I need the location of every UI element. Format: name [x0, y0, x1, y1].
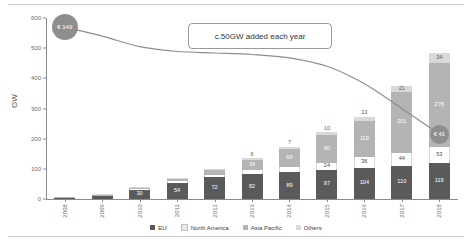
legend-swatch — [243, 225, 248, 230]
bar-segment-others — [167, 178, 188, 179]
bar-segment-north-america — [204, 175, 225, 177]
x-tick-mark — [215, 199, 216, 202]
bar-2017[interactable]: 1104420121 — [391, 86, 412, 199]
bar-value-label: 89 — [279, 183, 300, 189]
bar-segment-asia-pacific — [92, 195, 113, 196]
top-rule — [8, 4, 464, 5]
y-tick-label: 400 — [31, 75, 41, 81]
bar-total-label: 13 — [354, 110, 375, 116]
y-tick-mark — [43, 138, 46, 139]
bar-segment-asia-pacific: 119 — [354, 121, 375, 157]
x-tick-label-2013: 2013 — [249, 204, 255, 218]
bar-segment-eu: 30 — [129, 190, 150, 199]
chart-canvas: GW 0100200300400500600305472823468960797… — [0, 0, 472, 240]
bar-segment-others: 34 — [429, 53, 450, 63]
y-tick-label: 200 — [31, 136, 41, 142]
bar-segment-eu: 97 — [316, 170, 337, 199]
bar-2014[interactable]: 89607 — [279, 147, 300, 199]
bar-value-label: 21 — [391, 86, 412, 92]
bar-segment-eu: 119 — [429, 163, 450, 199]
bar-value-label: 24 — [317, 163, 336, 169]
x-tick-mark — [102, 199, 103, 202]
y-tick-label: 600 — [31, 15, 41, 21]
start-cost-marker: € 149 — [52, 14, 78, 40]
bar-value-label: 119 — [429, 178, 450, 184]
x-tick-label-2017: 2017 — [399, 204, 405, 218]
bar-segment-eu: 110 — [391, 166, 412, 199]
bar-total-label: 10 — [316, 126, 337, 132]
bar-value-label: 90 — [316, 146, 337, 152]
x-tick-mark — [65, 199, 66, 202]
bar-segment-others — [279, 147, 300, 149]
x-tick-mark — [439, 199, 440, 202]
y-tick-mark — [43, 18, 46, 19]
x-tick-mark — [289, 199, 290, 202]
legend-item-asia-pacific[interactable]: Asia Pacific — [243, 224, 282, 231]
x-tick-label-2012: 2012 — [212, 204, 218, 218]
bar-value-label: 34 — [242, 162, 263, 168]
bar-2011[interactable]: 54 — [167, 178, 188, 199]
bar-segment-asia-pacific: 90 — [316, 135, 337, 162]
bar-segment-others: 21 — [391, 86, 412, 92]
x-tick-label-2011: 2011 — [174, 204, 180, 217]
bar-total-label: 7 — [279, 140, 300, 146]
bar-segment-eu: 104 — [354, 168, 375, 199]
bar-2015[interactable]: 97249010 — [316, 132, 337, 199]
x-tick-label-2014: 2014 — [286, 204, 292, 218]
bottom-rule — [8, 236, 464, 237]
annotation-box: c.50GW added each year — [188, 23, 332, 49]
bar-value-label: 119 — [354, 136, 375, 142]
bar-segment-others — [316, 132, 337, 135]
legend-label: Others — [304, 225, 322, 231]
legend-item-north-america[interactable]: North America — [181, 224, 229, 231]
bar-total-label: 6 — [242, 152, 263, 158]
x-tick-mark — [327, 199, 328, 202]
y-axis-label: GW — [10, 94, 19, 108]
x-tick-mark — [252, 199, 253, 202]
bar-segment-asia-pacific: 34 — [242, 160, 263, 170]
x-tick-label-2010: 2010 — [137, 204, 143, 218]
x-tick-mark — [364, 199, 365, 202]
bar-segment-north-america: 36 — [354, 157, 375, 168]
bar-value-label: 72 — [204, 185, 225, 191]
bar-segment-north-america: 44 — [391, 153, 412, 166]
bar-segment-asia-pacific — [204, 170, 225, 175]
y-tick-label: 100 — [31, 166, 41, 172]
bar-2016[interactable]: 1043611913 — [354, 117, 375, 199]
bar-value-label: 97 — [316, 182, 337, 188]
bar-segment-north-america — [167, 181, 188, 183]
end-cost-marker: € 43 — [430, 125, 449, 144]
bar-segment-north-america — [279, 167, 300, 172]
bar-value-label: 110 — [391, 180, 412, 186]
legend-swatch — [181, 224, 188, 231]
x-tick-label-2009: 2009 — [99, 204, 105, 218]
legend-item-eu[interactable]: EU — [150, 224, 166, 231]
x-tick-label-2016: 2016 — [361, 204, 367, 218]
bar-2013[interactable]: 82346 — [242, 158, 263, 199]
legend-item-others[interactable]: Others — [296, 224, 322, 231]
bar-segment-others — [242, 158, 263, 160]
x-tick-mark — [177, 199, 178, 202]
bar-segment-north-america — [129, 189, 150, 190]
y-tick-mark — [43, 108, 46, 109]
y-tick-mark — [43, 168, 46, 169]
annotation-text: c.50GW added each year — [215, 32, 306, 41]
bar-value-label: 34 — [429, 55, 450, 61]
x-tick-mark — [140, 199, 141, 202]
bar-value-label: 53 — [430, 152, 449, 158]
bar-segment-eu: 82 — [242, 174, 263, 199]
bar-segment-asia-pacific — [129, 188, 150, 189]
legend-swatch — [150, 225, 155, 230]
y-tick-label: 0 — [38, 196, 41, 202]
bar-value-label: 30 — [129, 192, 150, 198]
bar-value-label: 36 — [355, 159, 374, 165]
bar-value-label: 104 — [354, 181, 375, 187]
bar-2012[interactable]: 72 — [204, 169, 225, 199]
bar-segment-eu: 54 — [167, 183, 188, 199]
bar-2010[interactable]: 30 — [129, 187, 150, 199]
bar-value-label: 60 — [279, 155, 300, 161]
legend-label: Asia Pacific — [251, 225, 282, 231]
bar-segment-others — [204, 169, 225, 170]
bar-value-label: 54 — [167, 188, 188, 194]
bar-segment-asia-pacific — [167, 179, 188, 182]
